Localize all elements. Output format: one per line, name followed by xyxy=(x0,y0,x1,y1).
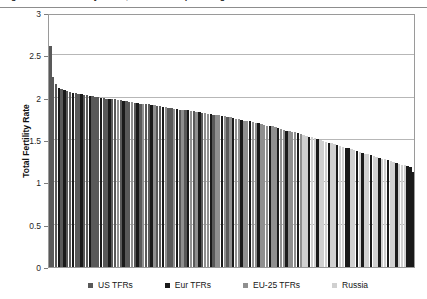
legend-label: Eur TFRs xyxy=(175,280,211,290)
y-tick-label: 2 xyxy=(36,94,41,104)
caption-divider xyxy=(0,7,427,8)
y-axis-label: Total Fertility Rate xyxy=(21,71,31,211)
legend-item[interactable]: Eur TFRs xyxy=(165,280,211,290)
figure-container: Figure 1. Total Fertility Rates, US and … xyxy=(0,0,427,299)
bar xyxy=(412,172,414,267)
y-tick-label: 1 xyxy=(36,178,41,188)
y-tick-label: 0 xyxy=(36,263,41,273)
legend-item[interactable]: Russia xyxy=(332,280,368,290)
legend-swatch-icon xyxy=(243,283,248,288)
legend-label: Russia xyxy=(342,280,368,290)
legend-label: EU-25 TFRs xyxy=(253,280,300,290)
legend-item[interactable]: EU-25 TFRs xyxy=(243,280,300,290)
legend-swatch-icon xyxy=(88,283,93,288)
legend-label: US TFRs xyxy=(98,280,133,290)
figure-caption-strip: Figure 1. Total Fertility Rates, US and … xyxy=(0,0,427,7)
chart-legend: US TFRsEur TFRsEU-25 TFRsRussia xyxy=(48,278,415,292)
y-tick-mark xyxy=(44,268,48,269)
bar-series xyxy=(49,15,414,267)
y-axis-label-wrap: Total Fertility Rate xyxy=(8,14,22,268)
y-tick-label: 0.5 xyxy=(29,221,41,231)
legend-swatch-icon xyxy=(332,283,337,288)
y-tick-label: 2.5 xyxy=(29,51,41,61)
legend-item[interactable]: US TFRs xyxy=(88,280,133,290)
plot-area xyxy=(48,14,415,268)
figure-caption: Figure 1. Total Fertility Rates, US and … xyxy=(3,0,244,1)
y-tick-label: 3 xyxy=(36,9,41,19)
legend-swatch-icon xyxy=(165,283,170,288)
